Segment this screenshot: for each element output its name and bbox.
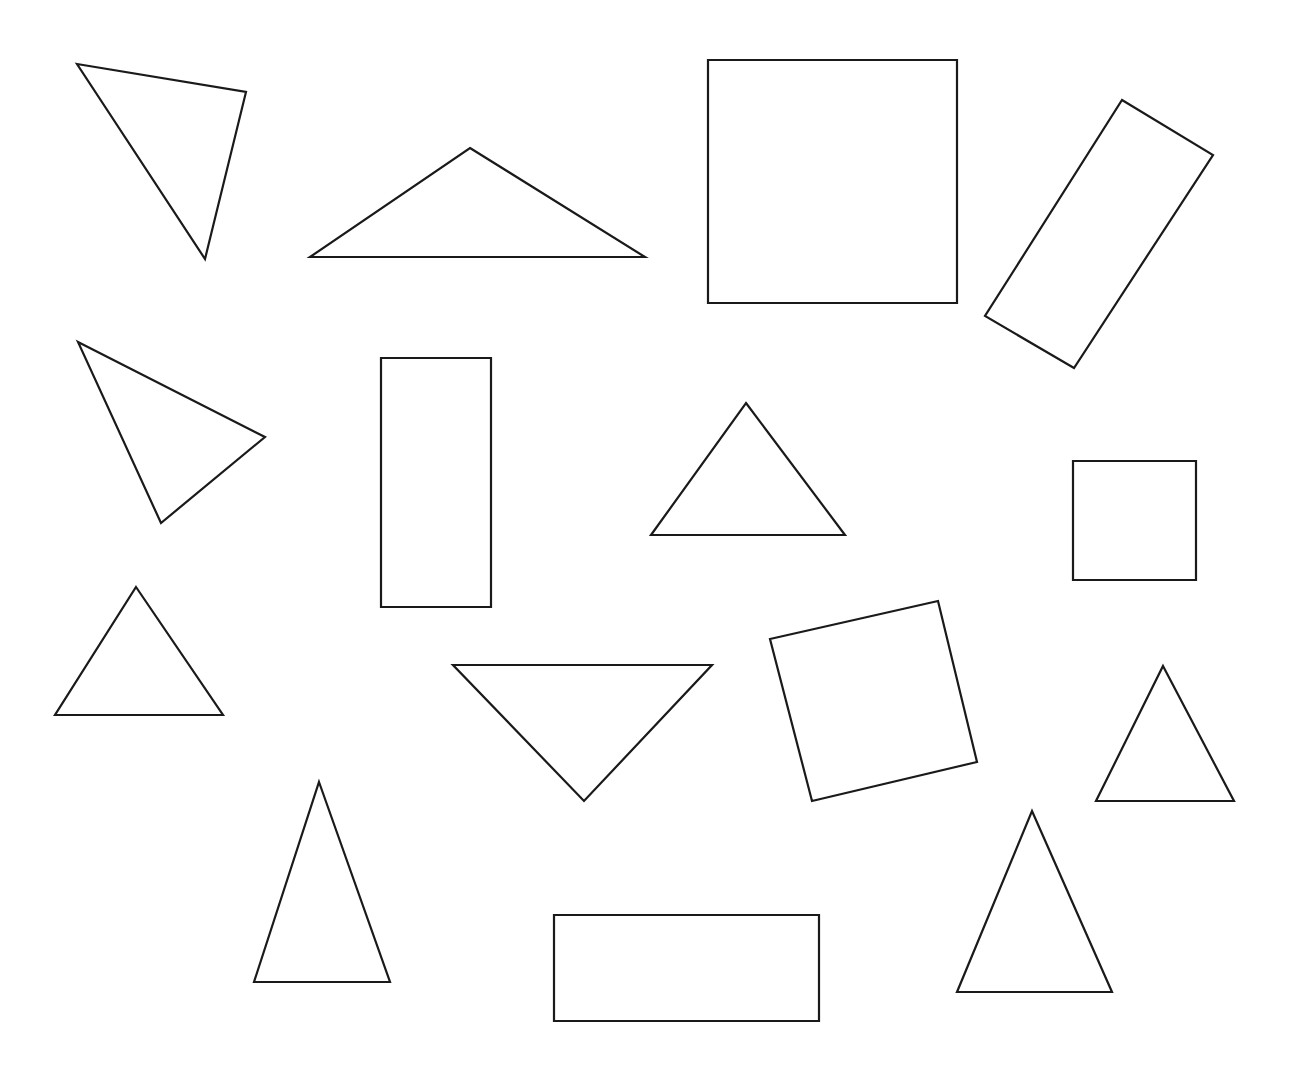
- wide-rectangle-bottom: [554, 915, 819, 1021]
- tall-rectangle-mid: [381, 358, 491, 607]
- shapes-canvas: [0, 0, 1297, 1076]
- small-square-right: [1073, 461, 1196, 580]
- large-square-top: [708, 60, 957, 303]
- shapes-svg: [0, 0, 1297, 1076]
